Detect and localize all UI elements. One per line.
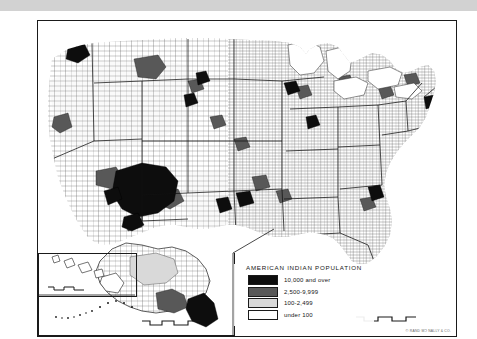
map-legend: AMERICAN INDIAN POPULATION 10,000 and ov… [234, 264, 374, 326]
map-page: AMERICAN INDIAN POPULATION 10,000 and ov… [0, 11, 477, 339]
legend-item: under 100 [248, 310, 374, 320]
legend-swatch-under-100 [248, 310, 278, 320]
legend-swatch-2500-9999 [248, 287, 278, 297]
legend-item: 100-2,499 [248, 298, 374, 308]
legend-label-100-2499: 100-2,499 [284, 300, 313, 306]
legend-label-under-100: under 100 [284, 312, 313, 318]
legend-label-2500-9999: 2,500-9,999 [284, 289, 318, 295]
legend-swatch-100-2499 [248, 298, 278, 308]
credit-text: RAND MƆ NALLY & CO. [410, 329, 451, 333]
legend-item: 2,500-9,999 [248, 287, 374, 297]
legend-label-10000-and-over: 10,000 and over [284, 277, 330, 283]
publisher-credit: © RAND MƆ NALLY & CO. [406, 328, 451, 333]
legend-item: 10,000 and over [248, 275, 374, 285]
legend-swatch-10000-and-over [248, 275, 278, 285]
legend-title: AMERICAN INDIAN POPULATION [234, 264, 374, 271]
map-frame: AMERICAN INDIAN POPULATION 10,000 and ov… [37, 20, 457, 337]
copyright-icon: © [406, 328, 409, 333]
hawaii-inset-frame [38, 253, 137, 297]
